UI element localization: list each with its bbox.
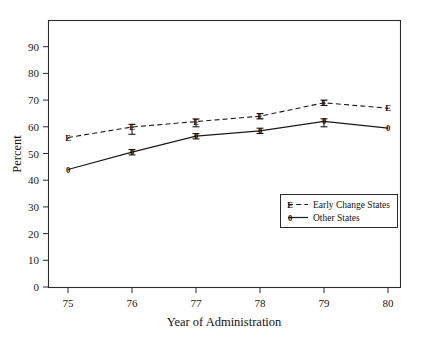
y-tick-label-20: 20: [28, 228, 40, 240]
data-point-marker: E: [129, 122, 135, 132]
line-chart-svg: 0 10 20 30 40 50 60 70 80 90 Percent 75 …: [0, 0, 421, 338]
data-point-marker: 0: [258, 126, 262, 136]
data-point-marker: E: [321, 98, 327, 108]
legend-marker-other: 0: [288, 213, 292, 223]
data-point-marker: E: [193, 117, 199, 127]
y-tick-label-70: 70: [28, 94, 40, 106]
data-point-marker: E: [65, 133, 71, 143]
data-point-marker: 0: [386, 123, 390, 133]
y-tick-label-30: 30: [28, 201, 40, 213]
x-tick-label-75: 75: [63, 297, 75, 309]
legend-marker-early: E: [287, 200, 293, 210]
y-axis: 0 10 20 30 40 50 60 70 80 90: [28, 41, 49, 293]
y-tick-label-40: 40: [28, 174, 40, 186]
data-point-marker: 0: [66, 165, 70, 175]
series-early-change-states: E E E E E E: [65, 98, 391, 143]
early-change-line: [68, 103, 388, 138]
other-states-error-bars: [129, 119, 328, 155]
x-tick-label-78: 78: [255, 297, 267, 309]
x-axis-title: Year of Administration: [167, 315, 282, 329]
y-tick-label-0: 0: [34, 281, 40, 293]
data-point-marker: 0: [194, 131, 198, 141]
data-point-marker: 0: [130, 147, 134, 157]
chart-legend: E Early Change States 0 Other States: [281, 195, 398, 228]
x-tick-label-76: 76: [127, 297, 139, 309]
y-tick-label-10: 10: [28, 254, 40, 266]
y-tick-label-90: 90: [28, 41, 40, 53]
y-axis-title: Percent: [10, 135, 24, 173]
x-tick-label-79: 79: [319, 297, 331, 309]
chart-figure: 0 10 20 30 40 50 60 70 80 90 Percent 75 …: [0, 0, 421, 338]
y-tick-label-50: 50: [28, 148, 40, 160]
y-tick-label-60: 60: [28, 121, 40, 133]
early-change-error-bars: [129, 100, 328, 134]
data-point-marker: E: [257, 111, 263, 121]
x-tick-label-80: 80: [383, 297, 395, 309]
data-point-marker: 0: [322, 116, 326, 126]
legend-label-early-change-states: Early Change States: [313, 200, 390, 210]
plot-frame: [49, 21, 401, 288]
x-axis: 75 76 77 78 79 80: [63, 287, 395, 309]
data-point-marker: E: [385, 103, 391, 113]
legend-label-other-states: Other States: [313, 213, 360, 223]
x-tick-label-77: 77: [191, 297, 203, 309]
y-tick-label-80: 80: [28, 67, 40, 79]
series-other-states: 0 0 0 0 0 0: [66, 116, 390, 174]
other-states-line: [68, 121, 388, 169]
